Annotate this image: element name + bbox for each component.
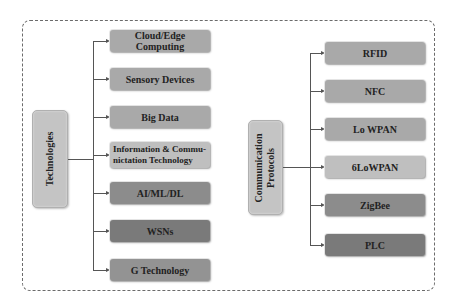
node-label: Sensory Devices [126, 74, 195, 85]
node-nfc: NFC [325, 80, 425, 102]
node-zigbee: ZigBee [325, 194, 425, 216]
node-sensory-devices: Sensory Devices [110, 68, 210, 90]
node-label: RFID [363, 48, 387, 59]
left-branch-5 [93, 193, 106, 194]
right-trunk-line [310, 53, 311, 246]
node-big-data: Big Data [110, 106, 210, 128]
node-g-technology: G Technology [110, 259, 210, 281]
left-trunk-line [93, 41, 94, 271]
hub-label-line-2: Protocols [266, 133, 278, 202]
node-label: NFC [365, 86, 386, 97]
node-ict: Information & Commu-nictation Technology [110, 142, 210, 168]
right-branch-2 [310, 91, 321, 92]
node-plc: PLC [325, 234, 425, 256]
right-branch-3 [310, 129, 321, 130]
right-branch-6 [310, 245, 321, 246]
node-label: PLC [365, 240, 385, 251]
node-label: Information & Commu-nictation Technology [113, 144, 210, 166]
left-branch-6 [93, 231, 106, 232]
left-branch-3 [93, 117, 106, 118]
right-hub-connector [283, 167, 310, 168]
communication-protocols-label: Communication Protocols [254, 133, 278, 202]
node-label: 6LoWPAN [352, 162, 398, 173]
node-6lowpan: 6LoWPAN [325, 156, 425, 178]
node-ai-ml-dl: AI/ML/DL [110, 182, 210, 204]
node-label: WSNs [147, 226, 174, 237]
left-branch-4 [93, 155, 106, 156]
left-branch-1 [93, 41, 106, 42]
node-wsns: WSNs [110, 220, 210, 242]
node-label: Lo WPAN [353, 124, 397, 135]
technologies-hub: Technologies [32, 110, 68, 208]
node-label: AI/ML/DL [137, 188, 184, 199]
left-hub-connector [68, 159, 93, 160]
node-label: G Technology [131, 265, 190, 276]
node-label: ZigBee [360, 200, 390, 211]
left-branch-7 [93, 270, 106, 271]
right-branch-5 [310, 205, 321, 206]
communication-protocols-hub: Communication Protocols [248, 120, 283, 215]
hub-label-line-1: Communication [254, 133, 266, 202]
node-lo-wpan: Lo WPAN [325, 118, 425, 140]
node-cloud-edge-computing: Cloud/Edge Computing [110, 30, 210, 52]
node-label: Big Data [141, 112, 179, 123]
node-rfid: RFID [325, 42, 425, 64]
node-label: Cloud/Edge Computing [110, 30, 210, 52]
technologies-label: Technologies [44, 132, 56, 187]
left-branch-2 [93, 79, 106, 80]
right-branch-1 [310, 53, 321, 54]
right-branch-4 [310, 167, 321, 168]
